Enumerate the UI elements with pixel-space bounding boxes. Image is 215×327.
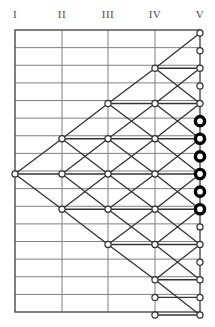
trellis-diagram: I II III IV V [0,0,215,327]
trellis-canvas [0,0,215,327]
